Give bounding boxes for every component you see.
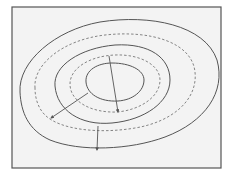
contour-diagram	[0, 0, 233, 176]
diagram-canvas	[0, 0, 233, 176]
